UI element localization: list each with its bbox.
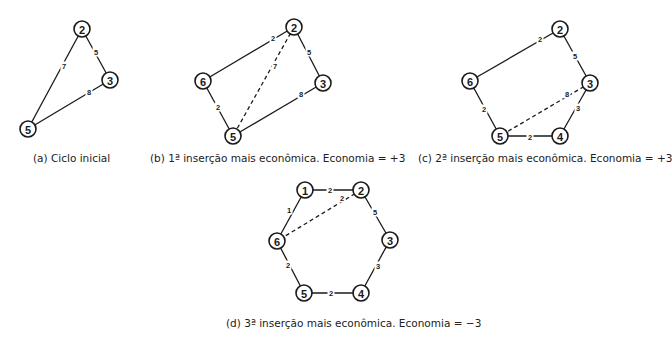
node-label: 2 (291, 22, 297, 34)
node-6: 6 (462, 73, 478, 89)
node-label: 4 (358, 288, 365, 300)
node-1: 1 (297, 182, 313, 198)
diagram-d: 2125322126354 (269, 182, 398, 301)
node-2: 2 (552, 21, 568, 37)
edge-weight-label: 5 (573, 52, 577, 61)
edge-weight-label: 2 (340, 194, 344, 203)
node-label: 2 (358, 185, 364, 197)
edge-2-6 (203, 27, 294, 81)
node-label: 3 (107, 75, 113, 87)
edge-weight-label: 2 (328, 186, 332, 195)
caption-b: (b) 1ª inserção mais econômica. Economia… (150, 152, 405, 164)
edge-weight-label: 8 (87, 88, 91, 97)
node-4: 4 (353, 285, 369, 301)
node-label: 3 (320, 78, 326, 90)
edge-weight-label: 2 (329, 289, 333, 298)
edge-weight-label: 7 (62, 62, 66, 71)
caption-d: (d) 3ª inserção mais econômica. Economia… (226, 317, 481, 329)
node-label: 5 (497, 131, 503, 143)
node-3: 3 (382, 232, 398, 248)
node-label: 6 (467, 76, 473, 88)
edge-weight-label: 5 (94, 48, 98, 57)
node-label: 5 (25, 124, 31, 136)
edge-weight-label: 2 (528, 133, 532, 142)
node-6: 6 (195, 73, 211, 89)
node-label: 5 (301, 288, 307, 300)
node-label: 6 (274, 236, 280, 248)
edge-weight-label: 2 (538, 35, 542, 44)
diagram-a: 578235 (20, 21, 118, 137)
graph-canvas: 578235257282635258322263542125322126354 (0, 0, 672, 339)
diagram-b: 257282635 (195, 19, 331, 144)
node-label: 6 (200, 76, 206, 88)
diagram-c: 25832226354 (462, 21, 598, 144)
edge-weight-label: 2 (482, 105, 486, 114)
caption-c: (c) 2ª inserção mais econômica. Economia… (418, 152, 672, 164)
node-label: 2 (79, 24, 85, 36)
node-label: 1 (302, 185, 308, 197)
node-label: 3 (387, 235, 393, 247)
edge-weight-label: 2 (286, 261, 290, 270)
node-label: 4 (557, 131, 564, 143)
node-5: 5 (296, 285, 312, 301)
node-2: 2 (286, 19, 302, 35)
node-label: 5 (230, 131, 236, 143)
edge-2-6-removed (277, 190, 361, 241)
edge-2-5 (28, 29, 82, 129)
edge-weight-label: 2 (271, 34, 275, 43)
node-5: 5 (492, 128, 508, 144)
node-2: 2 (74, 21, 90, 37)
edge-3-5 (28, 80, 110, 129)
node-label: 3 (587, 78, 593, 90)
edge-weight-label: 1 (287, 206, 291, 215)
node-5: 5 (225, 128, 241, 144)
node-3: 3 (582, 75, 598, 91)
edge-weight-label: 5 (307, 48, 311, 57)
node-3: 3 (102, 72, 118, 88)
edge-weight-label: 2 (216, 103, 220, 112)
node-5: 5 (20, 121, 36, 137)
edge-weight-label: 8 (299, 90, 303, 99)
edge-2-5-removed (233, 27, 294, 136)
node-2: 2 (353, 182, 369, 198)
node-3: 3 (315, 75, 331, 91)
caption-a: (a) Ciclo inicial (33, 152, 110, 164)
edge-3-5 (233, 83, 323, 136)
node-6: 6 (269, 233, 285, 249)
edge-weight-label: 8 (565, 90, 569, 99)
edge-weight-label: 5 (373, 208, 377, 217)
edge-2-6 (470, 29, 560, 81)
edge-weight-label: 3 (576, 104, 580, 113)
edge-weight-label: 7 (273, 62, 277, 71)
node-label: 2 (557, 24, 563, 36)
node-4: 4 (552, 128, 568, 144)
edge-weight-label: 3 (376, 262, 380, 271)
